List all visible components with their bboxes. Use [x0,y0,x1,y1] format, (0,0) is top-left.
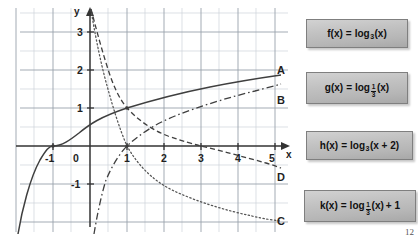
formula-k-base-numerator: 1 [366,202,370,209]
formula-f-name: f(x) [327,29,343,39]
minor-gridlines [20,8,288,232]
formula-g-base-denominator: 3 [372,92,376,99]
y-tick--1: -1 [71,179,80,190]
y-axis-arrow [86,7,94,16]
y-tick-2: 2 [77,65,83,76]
axes [16,13,281,227]
formula-k-equals: = [341,201,347,211]
formula-k-base-denominator: 3 [366,210,370,217]
formula-f-arg: (x) [375,29,387,39]
formula-h: h(x) = log 3 (x + 2) [320,141,399,151]
formula-g-name: g(x) [325,83,343,93]
formula-g-base-numerator: 1 [372,84,376,91]
logarithm-graph-figure: y x -1 0 1 2 3 4 5 3 2 1 -1 A B D C f(x)… [0,0,418,239]
y-axis-label: y [74,7,80,17]
x-tick-3: 3 [198,153,204,164]
formula-g-log: log [355,83,370,93]
page-number: 12 [405,227,414,237]
formula-h-name: h(x) [320,141,338,151]
x-tick-0: 0 [73,153,79,164]
formula-box-f[interactable]: f(x) = log 3 (x) [306,19,408,48]
y-tick-3: 3 [77,27,83,38]
formula-h-log: log [350,141,365,151]
curve-label-a: A [277,65,285,76]
major-gridlines [16,8,288,232]
formula-g-arg: (x) [377,83,389,93]
x-axis-label: x [286,150,292,160]
formula-f-base: 3 [370,33,374,40]
formula-f-equals: = [346,29,352,39]
curve-label-d: D [277,172,285,183]
formula-k-name: k(x) [320,201,338,211]
graph-canvas [0,0,300,239]
formula-box-g[interactable]: g(x) = log 1 3 (x) [306,72,408,104]
formula-box-k[interactable]: k(x) = log 1 3 (x) + 1 [304,190,416,222]
formula-g-base-fraction: 1 3 [371,84,376,99]
curve-a-path [18,75,281,234]
x-tick-4: 4 [235,153,241,164]
y-tick-1: 1 [77,103,83,114]
formula-k-arg: (x) [372,201,384,211]
curve-label-c: C [277,216,285,227]
formula-h-base: 3 [366,145,370,152]
x-tick-5: 5 [269,153,275,164]
formula-k-base-fraction: 1 3 [366,202,371,217]
formula-box-h[interactable]: h(x) = log 3 (x + 2) [306,131,413,160]
formula-k: k(x) = log 1 3 (x) + 1 [320,199,400,214]
formula-f-log: log [355,29,370,39]
formula-f: f(x) = log 3 (x) [327,29,387,39]
formula-h-equals: = [341,141,347,151]
x-tick--1: -1 [45,153,54,164]
curve-c-path [91,10,281,221]
formula-g: g(x) = log 1 3 (x) [325,81,389,96]
formula-legend: f(x) = log 3 (x) g(x) = log 1 3 (x) [300,0,418,239]
formula-h-arg: (x + 2) [370,141,399,151]
curve-d-path [91,9,281,168]
x-tick-2: 2 [161,153,167,164]
formula-g-equals: = [346,83,352,93]
x-tick-1: 1 [124,153,130,164]
formula-k-log: log [350,201,365,211]
curve-label-b: B [277,95,285,106]
coordinate-graph: y x -1 0 1 2 3 4 5 3 2 1 -1 A B D C [0,0,300,239]
formula-k-tail: + 1 [386,201,400,211]
